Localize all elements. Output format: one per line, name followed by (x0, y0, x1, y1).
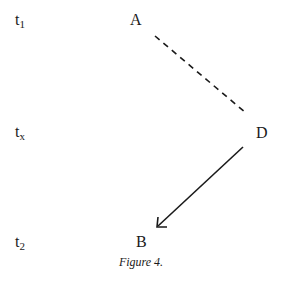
arrow-edge-d-b (158, 147, 243, 226)
figure-caption: Figure 4. (0, 255, 282, 270)
dashed-edge-a-d (155, 36, 246, 113)
diagram-edges (0, 0, 282, 283)
